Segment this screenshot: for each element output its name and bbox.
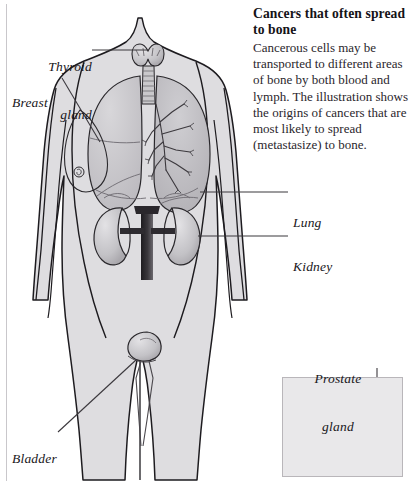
label-breast: Breast <box>12 64 48 126</box>
caption-title: Cancers that often spread to bone <box>253 6 411 38</box>
label-bladder: Bladder <box>12 420 57 482</box>
label-kidney: Kidney <box>293 228 332 290</box>
label-prostate-gland: Prostate gland <box>299 339 377 451</box>
label-prostate-gland-line1: Prostate <box>299 371 377 387</box>
trachea-organ <box>142 66 155 104</box>
label-prostate-gland-line2: gland <box>299 419 377 435</box>
label-kidney-line1: Kidney <box>293 259 332 275</box>
caption-block: Cancers that often spread to bone Cancer… <box>253 6 411 153</box>
bladder-organ <box>128 332 161 361</box>
label-bladder-line1: Bladder <box>12 451 57 467</box>
label-breast-line1: Breast <box>12 95 48 111</box>
caption-body: Cancerous cells may be transported to di… <box>253 40 411 153</box>
